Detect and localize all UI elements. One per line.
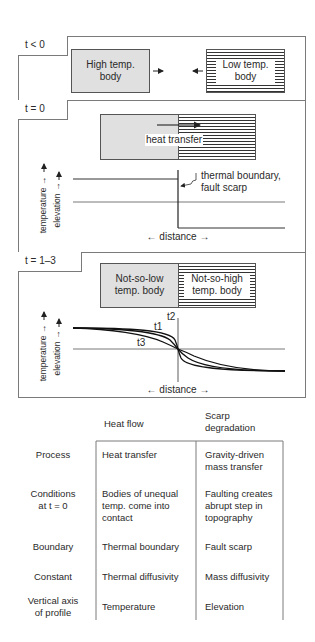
- text-line: Vertical axis: [18, 595, 88, 607]
- text-line: Boundary: [18, 541, 88, 553]
- text-line: at t = 0: [18, 500, 88, 512]
- cell-scarp-constant: Mass diffusivity: [205, 571, 269, 583]
- row-label-vertical-axis: Vertical axis of profile: [18, 595, 88, 619]
- text-line: Heat flow: [104, 418, 144, 430]
- text-line: Process: [18, 449, 88, 461]
- text-line: degradation: [205, 422, 255, 434]
- text-line: Bodies of unequal: [102, 488, 178, 500]
- cell-scarp-conditions: Faulting creates abrupt step in topograp…: [205, 488, 273, 524]
- text-line: abrupt step in: [205, 500, 273, 512]
- cell-heat-vertical-axis: Temperature: [102, 601, 155, 613]
- text-line: topography: [205, 512, 273, 524]
- text-line: Mass diffusivity: [205, 571, 269, 583]
- text-line: Thermal diffusivity: [102, 571, 178, 583]
- text-line: Scarp: [205, 410, 255, 422]
- row-label-process: Process: [18, 449, 88, 461]
- cell-heat-process: Heat transfer: [102, 449, 157, 461]
- text-line: temp. come into: [102, 500, 178, 512]
- text-line: Fault scarp: [205, 541, 252, 553]
- text-line: Heat transfer: [102, 449, 157, 461]
- text-line: Elevation: [205, 601, 244, 613]
- column-header-heat-flow: Heat flow: [104, 418, 144, 430]
- curve-t3: [73, 328, 285, 371]
- row-label-boundary: Boundary: [18, 541, 88, 553]
- text-line: of profile: [18, 607, 88, 619]
- text-line: Gravity-driven: [205, 449, 264, 461]
- text-line: Constant: [18, 571, 88, 583]
- cell-heat-constant: Thermal diffusivity: [102, 571, 178, 583]
- cell-scarp-process: Gravity-driven mass transfer: [205, 449, 264, 473]
- column-header-scarp-degradation: Scarp degradation: [205, 410, 255, 434]
- text-line: Faulting creates: [205, 488, 273, 500]
- text-line: Conditions: [18, 488, 88, 500]
- text-line: Temperature: [102, 601, 155, 613]
- text-line: Thermal boundary: [102, 541, 179, 553]
- cell-scarp-vertical-axis: Elevation: [205, 601, 244, 613]
- text-line: contact: [102, 512, 178, 524]
- cell-scarp-boundary: Fault scarp: [205, 541, 252, 553]
- row-label-conditions: Conditions at t = 0: [18, 488, 88, 512]
- cell-heat-boundary: Thermal boundary: [102, 541, 179, 553]
- row-label-constant: Constant: [18, 571, 88, 583]
- text-line: mass transfer: [205, 461, 264, 473]
- cell-heat-conditions: Bodies of unequal temp. come into contac…: [102, 488, 178, 524]
- leader-arrow-icon: [181, 173, 196, 186]
